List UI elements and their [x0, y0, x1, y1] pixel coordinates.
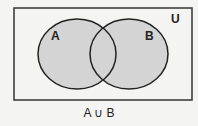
set-a-label: A [51, 29, 60, 43]
caption: A ∪ B [0, 106, 198, 120]
universe-label: U [171, 12, 180, 26]
set-b-label: B [145, 29, 154, 43]
